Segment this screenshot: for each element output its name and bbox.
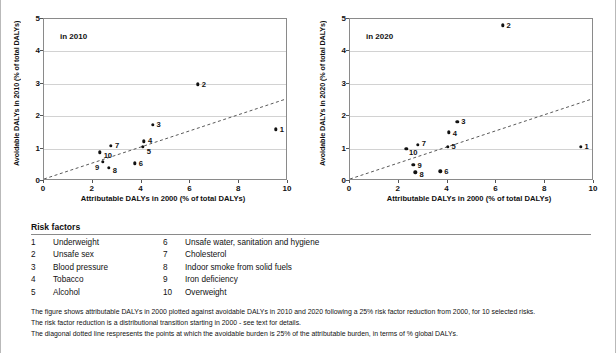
legend-item-number: 5	[31, 287, 53, 299]
data-point-label: 5	[452, 141, 456, 150]
data-point-label: 2	[202, 80, 206, 89]
diagonal-reference-line	[350, 19, 592, 179]
legend-item: 10Overweight	[163, 287, 463, 299]
legend-item-number: 8	[163, 262, 185, 274]
x-axis-tick-label: 6	[493, 184, 497, 193]
y-axis-tick-mark	[40, 83, 43, 84]
legend-item-label: Underweight	[53, 237, 163, 249]
data-point-label: 1	[280, 125, 284, 134]
y-axis-tick-mark	[40, 115, 43, 116]
legend-item: 7Cholesterol	[163, 249, 463, 261]
plot-area-2010: in 201012345678910 0123450246810	[43, 18, 287, 180]
legend-item-number: 3	[31, 262, 53, 274]
x-axis-tick-label: 8	[236, 184, 240, 193]
legend-item-number: 6	[163, 237, 185, 249]
y-axis-tick-mark	[346, 18, 349, 19]
x-axis-tick-label: 0	[347, 184, 351, 193]
x-axis-tick-mark	[287, 180, 288, 183]
data-point-label: 10	[409, 147, 417, 156]
legend-item-label: Iron deficiency	[185, 274, 463, 286]
data-point-label: 8	[419, 170, 423, 179]
footnote-line: The diagonal dotted line respresents the…	[31, 328, 607, 339]
data-point-label: 3	[157, 119, 161, 128]
data-point-label: 6	[139, 159, 143, 168]
x-axis-label-2010: Attributable DALYs in 2000 (% of total D…	[27, 194, 299, 203]
legend-item-number: 1	[31, 237, 53, 249]
x-axis-tick-mark	[398, 180, 399, 183]
y-axis-tick-mark	[346, 50, 349, 51]
x-axis-tick-label: 4	[138, 184, 142, 193]
data-point-label: 2	[507, 21, 511, 30]
chart-panel-2010: Avoidable DALYs in 2010 (% of total DALY…	[7, 8, 307, 216]
legend-item-label: Tobacco	[53, 274, 163, 286]
x-axis-tick-label: 0	[41, 184, 45, 193]
diagonal-reference-line	[44, 19, 286, 179]
data-point-label: 9	[95, 162, 99, 171]
data-point-label: 7	[115, 141, 119, 150]
legend-item-label: Unsafe sex	[53, 249, 163, 261]
footnote-line: The risk factor reduction is a distribut…	[31, 317, 607, 328]
footnote-line: The figure shows attributable DALYs in 2…	[31, 306, 607, 317]
legend-item: 5Alcohol	[31, 287, 163, 299]
data-point-label: 1	[585, 141, 589, 150]
x-axis-tick-mark	[141, 180, 142, 183]
plot-frame-2020: in 202012345678910	[349, 18, 593, 180]
data-point-label: 8	[113, 166, 117, 175]
plot-frame-2010: in 201012345678910	[43, 18, 287, 180]
chart-panel-2020: Avoidable DALYs in 2020 (% of total DALY…	[313, 8, 613, 216]
x-axis-tick-label: 2	[90, 184, 94, 193]
figure-footnotes: The figure shows attributable DALYs in 2…	[31, 306, 607, 340]
data-point-label: 3	[461, 117, 465, 126]
data-point-label: 7	[422, 138, 426, 147]
figure-page: Avoidable DALYs in 2010 (% of total DALY…	[0, 0, 616, 353]
panel-label: in 2010	[60, 32, 87, 41]
legend-item: 8Indoor smoke from solid fuels	[163, 262, 463, 274]
x-axis-tick-mark	[189, 180, 190, 183]
x-axis-tick-label: 10	[589, 184, 598, 193]
legend-divider	[31, 234, 591, 235]
x-axis-tick-mark	[43, 180, 44, 183]
legend-item-label: Cholesterol	[185, 249, 463, 261]
data-point-label: 4	[148, 136, 152, 145]
x-axis-tick-mark	[349, 180, 350, 183]
x-axis-tick-mark	[593, 180, 594, 183]
y-axis-tick-mark	[346, 148, 349, 149]
legend-column-two: 6Unsafe water, sanitation and hygiene7Ch…	[163, 237, 463, 299]
data-point-label: 5	[147, 146, 151, 155]
legend-item-label: Alcohol	[53, 287, 163, 299]
x-axis-tick-mark	[544, 180, 545, 183]
y-axis-tick-mark	[346, 83, 349, 84]
legend-title: Risk factors	[31, 222, 591, 232]
legend-item-number: 7	[163, 249, 185, 261]
x-axis-tick-mark	[447, 180, 448, 183]
x-axis-tick-label: 4	[444, 184, 448, 193]
legend-item: 3Blood pressure	[31, 262, 163, 274]
data-point-label: 4	[453, 129, 457, 138]
y-axis-label-2010: Avoidable DALYs in 2010 (% of total DALY…	[9, 8, 23, 178]
legend-item-number: 10	[163, 287, 185, 299]
x-axis-tick-label: 10	[283, 184, 292, 193]
legend-item: 2Unsafe sex	[31, 249, 163, 261]
data-point-label: 9	[417, 160, 421, 169]
legend-column-one: 1Underweight2Unsafe sex3Blood pressure4T…	[31, 237, 163, 299]
legend-item-number: 9	[163, 274, 185, 286]
legend-item-label: Blood pressure	[53, 262, 163, 274]
x-axis-tick-label: 6	[187, 184, 191, 193]
legend-item: 9Iron deficiency	[163, 274, 463, 286]
plot-area-2020: in 202012345678910 0123450246810	[349, 18, 593, 180]
y-axis-label-2020: Avoidable DALYs in 2020 (% of total DALY…	[315, 8, 329, 178]
y-axis-tick-mark	[40, 18, 43, 19]
data-point-label: 6	[444, 167, 448, 176]
legend-item-number: 2	[31, 249, 53, 261]
risk-factors-legend: Risk factors 1Underweight2Unsafe sex3Blo…	[31, 222, 591, 299]
legend-item-number: 4	[31, 274, 53, 286]
x-axis-tick-label: 2	[396, 184, 400, 193]
y-axis-tick-mark	[346, 115, 349, 116]
legend-item-label: Overweight	[185, 287, 463, 299]
x-axis-tick-mark	[92, 180, 93, 183]
y-axis-tick-mark	[40, 148, 43, 149]
legend-item: 6Unsafe water, sanitation and hygiene	[163, 237, 463, 249]
charts-row: Avoidable DALYs in 2010 (% of total DALY…	[1, 0, 616, 216]
legend-item: 4Tobacco	[31, 274, 163, 286]
x-axis-tick-label: 8	[542, 184, 546, 193]
